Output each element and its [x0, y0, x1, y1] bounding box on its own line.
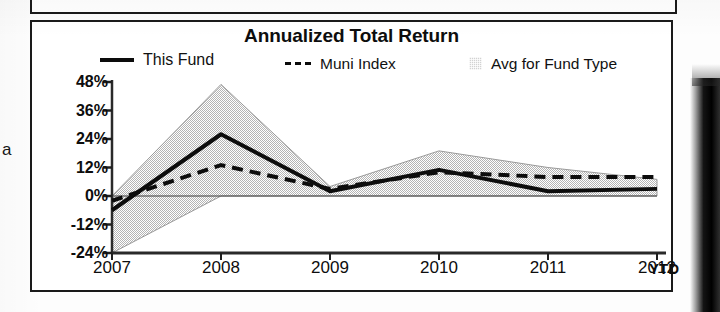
stray-margin-glyph: a	[2, 140, 11, 160]
y-axis-tick-label: 36%	[76, 102, 108, 120]
x-axis-tick-label: 2010	[420, 258, 458, 278]
y-axis-tick-label: 0%	[85, 187, 108, 205]
plot-svg	[32, 22, 675, 294]
annualized-total-return-chart: Annualized Total Return This Fund Muni I…	[30, 20, 673, 292]
screenshot-root: a Annualized Total Return This Fund Muni…	[0, 0, 720, 312]
x-axis-tick-label: 2009	[311, 258, 349, 278]
x-axis-tick-label: 2008	[202, 258, 240, 278]
panel-above-fragment	[30, 0, 677, 14]
y-axis-tick-label: 12%	[76, 159, 108, 177]
y-axis-tick-labels: 48%36%24%12%0%-12%-24%	[50, 22, 108, 294]
plot-area: 48%36%24%12%0%-12%-24% 20072008200920102…	[32, 22, 675, 294]
x-axis-tick-label: 2011	[530, 258, 567, 278]
page-edge-shadow	[690, 78, 720, 312]
ytd-label: YTD	[649, 260, 679, 277]
x-axis-tick-labels: 200720082009201020112012	[32, 258, 675, 286]
y-axis-tick-label: 24%	[76, 130, 108, 148]
y-axis-tick-label: 48%	[76, 73, 108, 91]
series-band-avg-for-fund-type	[112, 84, 657, 253]
x-axis-tick-label: 2007	[93, 258, 131, 278]
y-axis-tick-label: -12%	[71, 216, 108, 234]
